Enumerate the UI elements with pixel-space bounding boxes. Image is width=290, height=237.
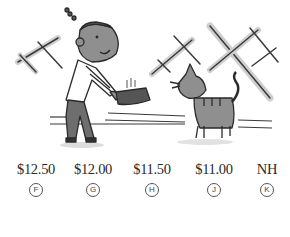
window-cross-right (152, 26, 278, 98)
boy (65, 8, 150, 142)
choice-bubble-k[interactable]: K (260, 183, 274, 197)
choice-value: $12.00 (74, 160, 112, 178)
choice-bubble-g[interactable]: G (86, 183, 100, 197)
window-cross-left (18, 38, 62, 72)
choice-value: $11.50 (133, 160, 171, 178)
choice-h[interactable]: $11.50 H (122, 160, 182, 197)
choice-bubble-h[interactable]: H (145, 183, 159, 197)
choice-bubble-f[interactable]: F (29, 183, 43, 197)
choice-k[interactable]: NH K (237, 160, 290, 197)
choice-value: $11.00 (195, 160, 233, 178)
question-illustration (0, 0, 290, 150)
answer-choices: $12.50 F $12.00 G $11.50 H $11.00 J NH K (0, 160, 290, 210)
choice-f[interactable]: $12.50 F (6, 160, 66, 197)
choice-value: NH (257, 160, 277, 178)
choice-value: $12.50 (17, 160, 55, 178)
choice-j[interactable]: $11.00 J (184, 160, 244, 197)
choice-bubble-j[interactable]: J (207, 183, 221, 197)
cat (170, 64, 238, 138)
choice-g[interactable]: $12.00 G (63, 160, 123, 197)
